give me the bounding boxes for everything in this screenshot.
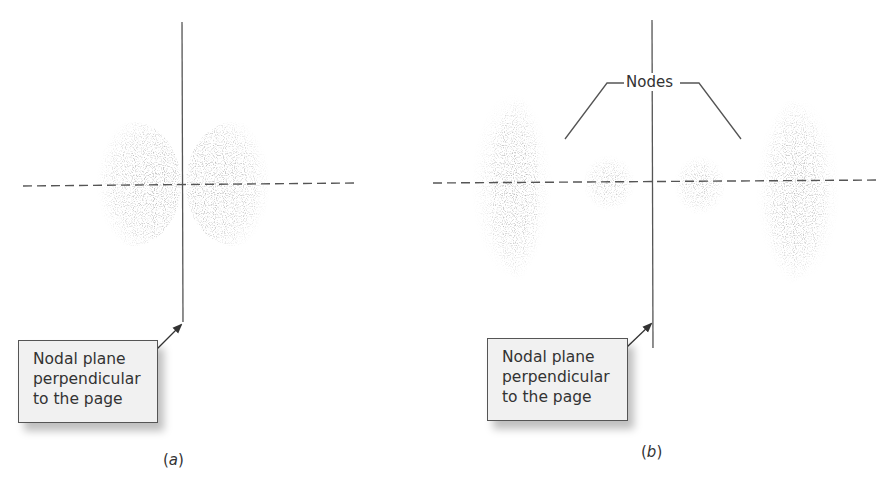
panel-b bbox=[433, 20, 880, 348]
caption-letter: a bbox=[169, 451, 178, 469]
nodes-bracket-left bbox=[565, 83, 625, 139]
nodal-plane-line-a bbox=[182, 22, 183, 322]
outer-lobe-right-b bbox=[756, 95, 840, 286]
caption-a: (a) bbox=[163, 451, 184, 469]
caption-b: (b) bbox=[641, 443, 662, 461]
label-line: Nodal plane bbox=[502, 347, 617, 367]
label-line: perpendicular bbox=[33, 369, 147, 389]
label-line: Nodal plane bbox=[33, 349, 147, 369]
caption-letter: b bbox=[647, 443, 657, 461]
inner-lobe-right-b bbox=[674, 155, 726, 215]
nodal-plane-label-a: Nodal plane perpendicular to the page bbox=[18, 340, 158, 423]
label-line: to the page bbox=[502, 387, 617, 407]
nodal-plane-line-b bbox=[652, 20, 653, 348]
nodes-label: Nodes bbox=[624, 73, 675, 91]
pointer-arrow-a bbox=[157, 325, 181, 349]
caption-paren: ) bbox=[656, 443, 662, 461]
label-line: to the page bbox=[33, 389, 147, 409]
nodal-plane-label-b: Nodal plane perpendicular to the page bbox=[487, 338, 628, 421]
caption-paren: ) bbox=[178, 451, 184, 469]
outer-lobe-left-b bbox=[472, 92, 552, 283]
pointer-arrow-b bbox=[627, 324, 651, 347]
inner-lobe-left-b bbox=[583, 155, 635, 211]
label-line: perpendicular bbox=[502, 367, 617, 387]
panel-a bbox=[23, 22, 357, 349]
nodes-bracket-right bbox=[680, 83, 741, 139]
lobe-left-a bbox=[85, 122, 181, 246]
